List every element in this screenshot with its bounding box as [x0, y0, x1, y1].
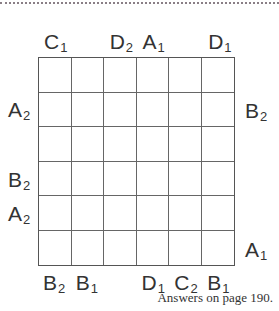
clue-left: B2: [8, 169, 30, 190]
grid-cell[interactable]: [39, 231, 72, 266]
grid-cell[interactable]: [169, 196, 202, 231]
grid-cell[interactable]: [104, 93, 137, 128]
grid-cell[interactable]: [104, 58, 137, 93]
grid-cell[interactable]: [39, 162, 72, 197]
clue-bottom: B2: [43, 272, 65, 293]
grid-cell[interactable]: [169, 162, 202, 197]
clue-top: D1: [208, 31, 231, 52]
dotted-divider: [0, 2, 279, 4]
grid-cell[interactable]: [202, 196, 235, 231]
grid-cell[interactable]: [72, 127, 105, 162]
grid-cell[interactable]: [202, 93, 235, 128]
grid-cell[interactable]: [39, 58, 72, 93]
grid-cell[interactable]: [202, 162, 235, 197]
clue-top: A1: [143, 31, 165, 52]
clue-left: A2: [8, 203, 30, 224]
grid-cell[interactable]: [104, 196, 137, 231]
grid-cell[interactable]: [137, 231, 170, 266]
grid-cell[interactable]: [169, 58, 202, 93]
clue-top: C1: [44, 31, 67, 52]
grid-cell[interactable]: [104, 162, 137, 197]
grid-cell[interactable]: [202, 127, 235, 162]
grid-cell[interactable]: [72, 196, 105, 231]
clue-top: D2: [110, 31, 133, 52]
grid-cell[interactable]: [72, 162, 105, 197]
clue-bottom: B1: [76, 272, 98, 293]
grid-cell[interactable]: [39, 93, 72, 128]
grid-cell[interactable]: [202, 58, 235, 93]
grid-cell[interactable]: [169, 93, 202, 128]
grid-cell[interactable]: [39, 127, 72, 162]
grid-cell[interactable]: [169, 127, 202, 162]
grid-cell[interactable]: [72, 93, 105, 128]
grid-cell[interactable]: [72, 58, 105, 93]
grid-cell[interactable]: [202, 231, 235, 266]
grid-cell[interactable]: [137, 196, 170, 231]
clue-left: A2: [8, 99, 30, 120]
grid-cell[interactable]: [137, 162, 170, 197]
grid-cell[interactable]: [39, 196, 72, 231]
grid-cell[interactable]: [169, 231, 202, 266]
grid-cell[interactable]: [72, 231, 105, 266]
answers-footer: Answers on page 190.: [157, 290, 273, 306]
clue-right: B2: [245, 100, 267, 121]
grid-cell[interactable]: [104, 127, 137, 162]
grid-cell[interactable]: [137, 93, 170, 128]
grid-cell[interactable]: [104, 231, 137, 266]
clue-right: A1: [245, 239, 267, 260]
grid-cell[interactable]: [137, 127, 170, 162]
grid-cell[interactable]: [137, 58, 170, 93]
puzzle-grid: [38, 57, 235, 266]
